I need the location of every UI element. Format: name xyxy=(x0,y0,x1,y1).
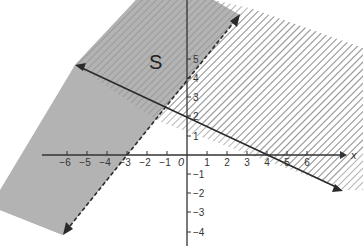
y-tick-label: 4 xyxy=(193,73,199,84)
y-tick-label: −4 xyxy=(193,227,205,238)
x-tick-label: −1 xyxy=(159,157,171,168)
x-tick-label: −4 xyxy=(99,157,111,168)
x-tick-label: −5 xyxy=(79,157,91,168)
y-tick-label: 1 xyxy=(193,131,199,142)
region-graph: −6 −5 −4 −3 −2 −1 1 2 3 4 5 6 x 0 5 4 3 … xyxy=(0,0,363,249)
origin-label: 0 xyxy=(178,156,185,168)
x-tick-label: −2 xyxy=(139,157,151,168)
region-s-label: S xyxy=(149,51,162,73)
x-tick-label: 1 xyxy=(204,157,210,168)
x-tick-label: −6 xyxy=(59,157,71,168)
x-tick-label: 6 xyxy=(304,157,310,168)
x-tick-label: 3 xyxy=(244,157,250,168)
y-tick-label: 3 xyxy=(193,92,199,103)
y-tick-label: 5 xyxy=(193,54,199,65)
y-tick-label: −3 xyxy=(193,207,205,218)
x-tick-label: 4 xyxy=(264,157,270,168)
y-tick-label: −2 xyxy=(193,188,205,199)
x-tick-label: 2 xyxy=(224,157,230,168)
x-axis-label: x xyxy=(350,149,357,161)
y-tick-label: −1 xyxy=(193,169,205,180)
